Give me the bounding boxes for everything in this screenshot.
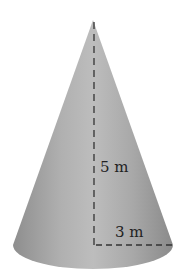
height-label: 5 m xyxy=(100,158,129,176)
radius-label: 3 m xyxy=(115,223,144,241)
cone-body xyxy=(13,20,173,269)
cone-diagram: 5 m 3 m xyxy=(0,0,183,280)
